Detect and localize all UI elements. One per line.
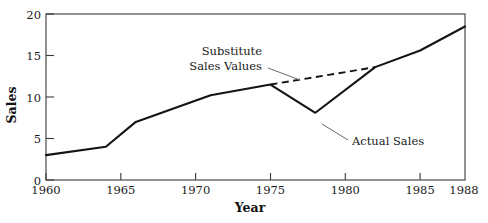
annotation-actual-leader-line xyxy=(322,124,348,140)
x-tick-label-1985: 1985 xyxy=(405,183,434,197)
x-axis-tick-labels: 1960 1965 1970 1975 1980 1985 1988 xyxy=(31,183,478,197)
x-tick-label-1988: 1988 xyxy=(449,183,478,197)
chart-canvas: 20 15 10 5 0 Sales 1960 1965 1970 1975 1… xyxy=(0,0,488,223)
x-axis-title: Year xyxy=(234,200,266,215)
sales-line-chart: 20 15 10 5 0 Sales 1960 1965 1970 1975 1… xyxy=(0,0,488,223)
series-line-substitute-sales-values xyxy=(270,67,375,84)
x-tick-label-1975: 1975 xyxy=(256,183,285,197)
x-tick-label-1960: 1960 xyxy=(31,183,60,197)
x-tick-label-1970: 1970 xyxy=(181,183,210,197)
annotation-actual-sales: Actual Sales xyxy=(322,124,424,148)
annotation-actual-label: Actual Sales xyxy=(351,134,424,148)
x-tick-label-1965: 1965 xyxy=(106,183,135,197)
y-tick-label-5: 5 xyxy=(34,132,41,146)
y-axis-title: Sales xyxy=(4,87,19,124)
annotation-substitute-line1: Substitute xyxy=(202,44,262,58)
y-tick-label-15: 15 xyxy=(26,49,41,63)
annotation-substitute-leader-line xyxy=(268,68,300,80)
annotation-substitute-line2: Sales Values xyxy=(189,59,262,73)
y-tick-label-10: 10 xyxy=(26,91,41,105)
x-axis-ticks xyxy=(46,173,420,180)
y-tick-label-20: 20 xyxy=(26,8,41,22)
plot-frame xyxy=(46,14,465,180)
x-tick-label-1980: 1980 xyxy=(331,183,360,197)
y-axis-tick-labels: 20 15 10 5 0 xyxy=(26,8,41,188)
annotation-substitute-sales-values: Substitute Sales Values xyxy=(189,44,300,80)
